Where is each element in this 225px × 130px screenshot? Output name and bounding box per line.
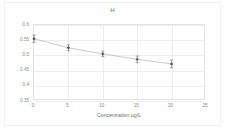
x-axis-title: Concentration µg/L	[33, 112, 205, 118]
x-tick-10: 10	[92, 103, 112, 108]
x-tick-0: 0	[23, 103, 43, 108]
plot-area	[33, 24, 205, 100]
y-tick-0.4: 0.4	[11, 82, 29, 87]
gridline-y-0.35	[34, 101, 204, 102]
chart-title: H	[0, 7, 225, 13]
data-point	[101, 52, 104, 55]
y-tick-0.35: 0.35	[11, 98, 29, 103]
x-tick-25: 25	[195, 103, 215, 108]
chart-figure: H 0.350.40.450.50.550.6 0510152025 Conce…	[0, 0, 225, 130]
data-point	[170, 62, 173, 65]
y-tick-0.5: 0.5	[11, 52, 29, 57]
x-tick-20: 20	[161, 103, 181, 108]
data-point	[67, 46, 70, 49]
x-tick-5: 5	[57, 103, 77, 108]
data-point	[136, 58, 139, 61]
data-point	[32, 37, 35, 40]
data-series-h	[34, 25, 206, 101]
y-tick-0.45: 0.45	[11, 67, 29, 72]
y-tick-0.6: 0.6	[11, 22, 29, 27]
x-tick-15: 15	[126, 103, 146, 108]
y-tick-0.55: 0.55	[11, 37, 29, 42]
